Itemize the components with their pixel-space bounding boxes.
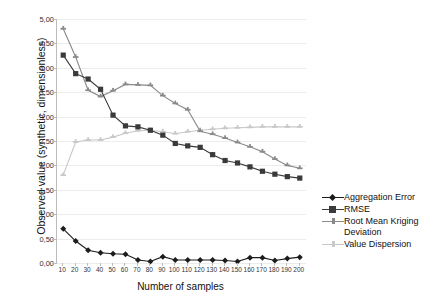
data-point <box>247 255 253 261</box>
data-point <box>123 130 129 134</box>
x-tick-label: 20 <box>71 266 78 273</box>
x-tick-label: 100 <box>169 266 180 273</box>
data-point <box>123 82 129 86</box>
data-point <box>247 164 252 169</box>
data-point <box>86 76 91 81</box>
x-tick-label: 180 <box>268 266 279 273</box>
data-point <box>272 172 277 177</box>
x-tick-label: 30 <box>84 266 91 273</box>
data-point <box>160 254 166 260</box>
x-tick-mark <box>249 263 250 266</box>
x-tick-label: 110 <box>182 266 192 273</box>
legend-marker-icon <box>322 192 344 203</box>
data-point <box>73 71 78 76</box>
x-tick-label: 50 <box>108 266 115 273</box>
data-point <box>297 124 303 128</box>
data-point <box>185 129 191 133</box>
plot-area <box>56 19 306 264</box>
data-point <box>284 256 290 262</box>
x-tick-mark <box>224 263 225 266</box>
x-tick-mark <box>299 263 300 266</box>
data-point <box>297 254 303 260</box>
x-tick-mark <box>137 263 138 266</box>
x-tick-mark <box>162 263 163 266</box>
y-tick-mark <box>52 19 56 20</box>
data-point <box>185 257 191 263</box>
legend-label: Aggregation Error <box>344 192 415 203</box>
legend-item[interactable]: Root Mean Kriging Deviation <box>322 216 432 238</box>
data-point <box>235 125 241 129</box>
x-axis-tick-labels: 1020304050607080901001101201301401501601… <box>56 266 305 280</box>
x-tick-label: 170 <box>256 266 267 273</box>
y-tick-mark <box>52 214 56 215</box>
legend-marker-icon <box>322 239 344 250</box>
series-line <box>63 55 300 178</box>
data-point <box>148 128 153 133</box>
x-tick-mark <box>100 263 101 266</box>
data-point <box>173 141 178 146</box>
y-tick-mark <box>52 239 56 240</box>
y-tick-mark <box>52 190 56 191</box>
x-tick-mark <box>261 263 262 266</box>
data-point <box>259 255 265 261</box>
data-point <box>85 87 91 91</box>
x-tick-mark <box>112 263 113 266</box>
y-tick-mark <box>52 165 56 166</box>
data-point <box>210 257 216 263</box>
legend-marker-icon <box>322 216 344 227</box>
y-tick-mark <box>52 263 56 264</box>
legend-marker-icon <box>322 204 344 215</box>
x-tick-mark <box>75 263 76 266</box>
data-point <box>122 251 128 257</box>
data-point <box>235 160 240 165</box>
legend-item[interactable]: Value Dispersion <box>322 239 432 250</box>
data-point <box>123 123 128 128</box>
data-point <box>285 124 291 128</box>
data-point <box>210 152 215 157</box>
data-point <box>272 258 278 264</box>
data-point <box>260 169 265 174</box>
data-point <box>148 83 154 87</box>
x-tick-label: 160 <box>244 266 255 273</box>
data-point <box>222 158 227 163</box>
x-tick-mark <box>87 263 88 266</box>
y-tick-mark <box>52 43 56 44</box>
data-point <box>222 258 228 264</box>
x-tick-label: 60 <box>121 266 128 273</box>
data-point <box>98 87 103 92</box>
x-tick-mark <box>174 263 175 266</box>
data-point <box>210 126 216 130</box>
x-tick-label: 200 <box>293 266 304 273</box>
x-tick-label: 90 <box>158 266 165 273</box>
chart-figure: Observed value (synthetic, dimensionless… <box>0 0 432 305</box>
data-point <box>135 82 141 86</box>
data-point <box>198 145 203 150</box>
data-point <box>135 257 141 263</box>
legend-item[interactable]: Aggregation Error <box>322 192 432 203</box>
data-point <box>85 137 91 141</box>
x-tick-label: 70 <box>133 266 140 273</box>
data-point <box>172 131 178 135</box>
x-tick-label: 130 <box>206 266 217 273</box>
x-tick-label: 40 <box>96 266 103 273</box>
x-tick-label: 150 <box>231 266 242 273</box>
data-point <box>197 257 203 263</box>
data-point <box>60 26 66 30</box>
data-point <box>285 174 290 179</box>
y-axis-tick-labels: 0,000,501,001,502,002,503,003,504,004,50… <box>26 0 54 305</box>
x-tick-label: 140 <box>219 266 230 273</box>
series-line <box>63 29 300 169</box>
data-point <box>60 172 66 176</box>
legend-item[interactable]: RMSE <box>322 204 432 215</box>
legend-label: Value Dispersion <box>344 239 411 250</box>
x-tick-mark <box>187 263 188 266</box>
x-tick-mark <box>286 263 287 266</box>
legend-label: Root Mean Kriging Deviation <box>344 216 432 238</box>
y-tick-mark <box>52 141 56 142</box>
data-point <box>160 133 165 138</box>
x-tick-mark <box>124 263 125 266</box>
data-point <box>73 139 79 143</box>
y-tick-mark <box>52 117 56 118</box>
data-point <box>160 129 166 133</box>
data-point <box>73 54 79 58</box>
